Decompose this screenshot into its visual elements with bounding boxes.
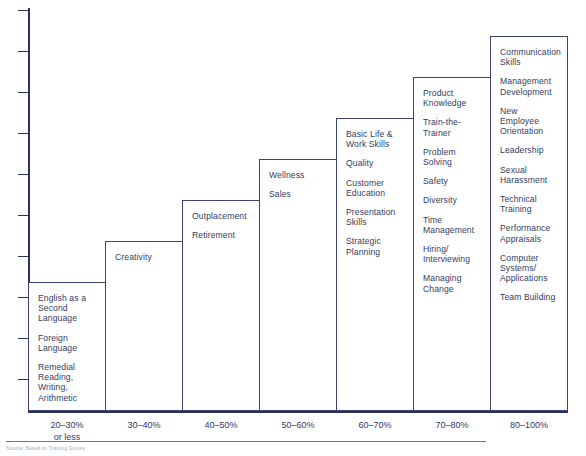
x-axis-tick-label: 70–80%: [413, 420, 491, 432]
bar-item-label: Product Knowledge: [423, 88, 481, 108]
x-axis-tick-label-line1: 40–50%: [182, 420, 260, 432]
bar-item-label: Sexual Harassment: [500, 165, 558, 185]
bar-item-label: Performance Appraisals: [500, 223, 558, 243]
bar-column[interactable]: English as a Second LanguageForeign Lang…: [28, 282, 106, 411]
bar-column[interactable]: Communication SkillsManagement Developme…: [490, 36, 568, 411]
bar-item-label: Time Management: [423, 215, 481, 235]
bar-column[interactable]: Basic Life & Work SkillsQualityCustomer …: [336, 118, 414, 411]
x-axis-tick-label-line1: 50–60%: [259, 420, 337, 432]
bar-item-label: Wellness: [269, 170, 327, 180]
bar-item-label: Communication Skills: [500, 47, 558, 67]
x-axis-line: [28, 411, 568, 413]
y-axis-tick: [18, 133, 28, 134]
x-axis-tick-label-line1: 30–40%: [105, 420, 183, 432]
bar-item-label: Leadership: [500, 145, 558, 155]
bar-item-label: Customer Education: [346, 178, 404, 198]
y-axis-tick: [18, 174, 28, 175]
bar-item-label: Remedial Reading, Writing, Arithmetic: [38, 362, 96, 403]
bar-item-label: Managing Change: [423, 273, 481, 293]
bar-item-label: Train-the-Trainer: [423, 117, 481, 137]
bar-item-label: Safety: [423, 176, 481, 186]
y-axis-tick: [18, 215, 28, 216]
x-axis-tick-label-line1: 20–30%: [28, 420, 106, 432]
bar-column[interactable]: Product KnowledgeTrain-the-TrainerProble…: [413, 77, 491, 411]
bar-item-label: Diversity: [423, 195, 481, 205]
bar-item-label: Problem Solving: [423, 147, 481, 167]
bar-item-label: Basic Life & Work Skills: [346, 129, 404, 149]
bar-item-label: Team Building: [500, 292, 558, 302]
x-axis-tick-label: 20–30%or less: [28, 420, 106, 443]
bar-item-label: Strategic Planning: [346, 236, 404, 256]
bar-item-label: Hiring/ Interviewing: [423, 244, 481, 264]
y-axis-tick: [18, 10, 28, 11]
x-axis-tick-label-line1: 80–100%: [490, 420, 568, 432]
bar-item-label: Technical Training: [500, 194, 558, 214]
bar-item-label: Sales: [269, 189, 327, 199]
x-axis-tick-label-line1: 60–70%: [336, 420, 414, 432]
y-axis-tick: [18, 297, 28, 298]
bar-item-label: Retirement: [192, 230, 250, 240]
bar-item-label: New Employee Orientation: [500, 106, 558, 137]
x-axis-tick-label: 80–100%: [490, 420, 568, 432]
training-topics-stair-chart: English as a Second LanguageForeign Lang…: [0, 0, 586, 456]
x-axis-tick-label: 40–50%: [182, 420, 260, 432]
x-axis-tick-label: 30–40%: [105, 420, 183, 432]
y-axis-tick: [18, 256, 28, 257]
source-note: Source: Based on Training Survey.: [6, 445, 86, 452]
y-axis-tick: [18, 379, 28, 380]
y-axis-tick: [18, 338, 28, 339]
x-axis-tick-label: 60–70%: [336, 420, 414, 432]
y-axis-tick: [18, 92, 28, 93]
x-axis-tick-label: 50–60%: [259, 420, 337, 432]
bar-group: English as a Second LanguageForeign Lang…: [28, 0, 568, 412]
bar-column[interactable]: WellnessSales: [259, 159, 337, 411]
bar-item-label: English as a Second Language: [38, 293, 96, 324]
bar-item-label: Presentation Skills: [346, 207, 404, 227]
bar-item-label: Creativity: [115, 252, 173, 262]
bar-item-label: Quality: [346, 158, 404, 168]
y-axis-tick: [18, 51, 28, 52]
bar-column[interactable]: Creativity: [105, 241, 183, 411]
source-divider: [6, 441, 486, 442]
bar-column[interactable]: OutplacementRetirement: [182, 200, 260, 411]
bar-item-label: Outplacement: [192, 211, 250, 221]
bar-item-label: Foreign Language: [38, 333, 96, 353]
bar-item-label: Management Development: [500, 76, 558, 96]
bar-item-label: Computer Systems/ Applications: [500, 253, 558, 284]
x-axis-tick-label-line1: 70–80%: [413, 420, 491, 432]
